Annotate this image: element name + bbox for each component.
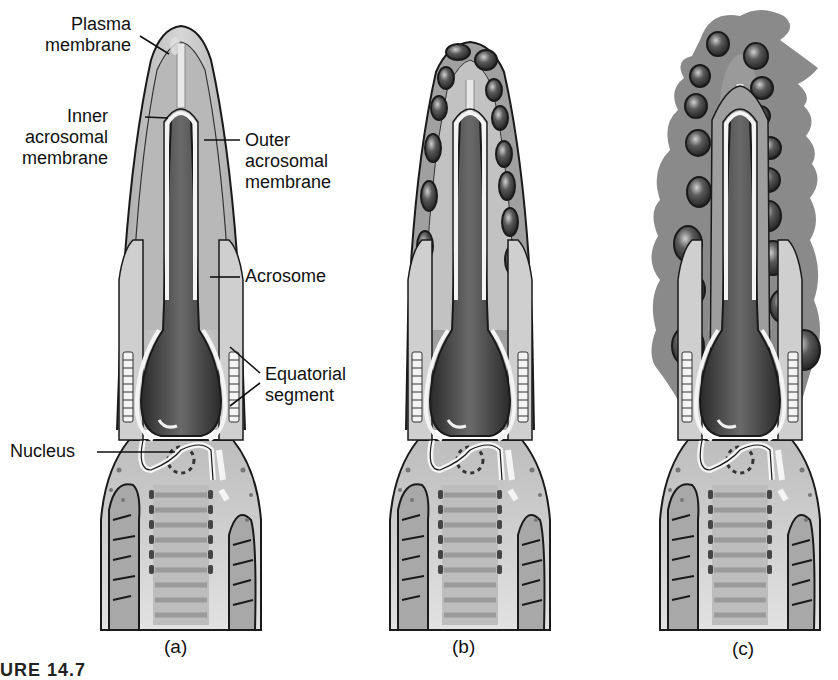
label-outer-acrosomal-membrane: Outer acrosomal membrane (245, 130, 331, 193)
label-line: membrane (22, 148, 108, 169)
label-nucleus: Nucleus (10, 441, 75, 462)
label-inner-acrosomal-membrane: Inner acrosomal membrane (22, 106, 108, 169)
sperm-panel-c (651, 10, 820, 630)
panel-label-c: (c) (732, 638, 754, 660)
label-line: segment (265, 385, 346, 406)
label-equatorial-segment: Equatorial segment (265, 364, 346, 406)
label-acrosome: Acrosome (245, 266, 326, 287)
label-line: Inner (22, 106, 108, 127)
label-line: Equatorial (265, 364, 346, 385)
sperm-panel-b (390, 42, 550, 630)
label-line: acrosomal (22, 127, 108, 148)
label-line: membrane (45, 35, 131, 56)
label-line: Plasma (45, 14, 131, 35)
sperm-panel-a (101, 26, 261, 630)
label-line: acrosomal (245, 151, 331, 172)
panel-label-b: (b) (452, 636, 475, 658)
label-line: membrane (245, 172, 331, 193)
panel-label-a: (a) (164, 636, 187, 658)
label-line: Acrosome (245, 266, 326, 287)
label-line: Outer (245, 130, 331, 151)
figure-caption: URE 14.7 (0, 660, 86, 680)
label-line: Nucleus (10, 441, 75, 462)
label-plasma-membrane: Plasma membrane (45, 14, 131, 56)
